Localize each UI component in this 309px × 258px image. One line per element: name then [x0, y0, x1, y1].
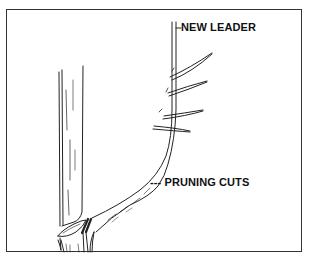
label-pruning-cuts: --- PRUNING CUTS — [150, 176, 249, 188]
side-branches — [153, 53, 212, 132]
new-leader-branch — [92, 22, 176, 252]
tree-illustration — [0, 0, 309, 258]
lower-trunk — [58, 232, 94, 252]
label-new-leader: NEW LEADER — [181, 21, 256, 33]
pruning-cut-mark — [82, 219, 91, 233]
upper-trunk-stub — [59, 66, 83, 226]
pruning-cuts-text: PRUNING CUTS — [164, 176, 249, 188]
pruning-cuts-dash-marker: --- — [150, 176, 161, 188]
